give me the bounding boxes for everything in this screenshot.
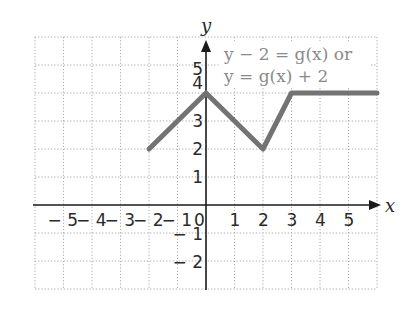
equation-line-1: y − 2 = g(x) or [223,44,353,64]
x-tick-label: − 5 [48,210,78,230]
y-tick-label: 1 [192,167,203,187]
x-tick-label: − 4 [76,210,106,230]
x-tick-label: 2 [258,210,269,230]
x-tick-label: 4 [315,210,326,230]
x-tick-label: 5 [344,210,355,230]
x-tick-label: − 3 [105,210,135,230]
y-tick-label: 3 [192,111,203,131]
x-tick-label: 3 [287,210,298,230]
y-tick-label: − 2 [173,252,203,272]
x-axis-arrow-icon [369,200,381,210]
x-tick-label: 1 [230,210,241,230]
y-axis-arrow-icon [201,40,211,52]
equation-line-2: y = g(x) + 2 [223,66,328,86]
x-axis-label: x [385,195,395,216]
y-axis-label: y [200,15,212,36]
x-tick-label: − 2 [133,210,163,230]
function-graph: x y − 5− 4− 3− 2− 1012345 − 2− 112345 y … [0,0,413,310]
y-tick-label: − 1 [173,224,203,244]
y-tick-label: 5 [192,59,203,79]
y-tick-label: 2 [192,139,203,159]
